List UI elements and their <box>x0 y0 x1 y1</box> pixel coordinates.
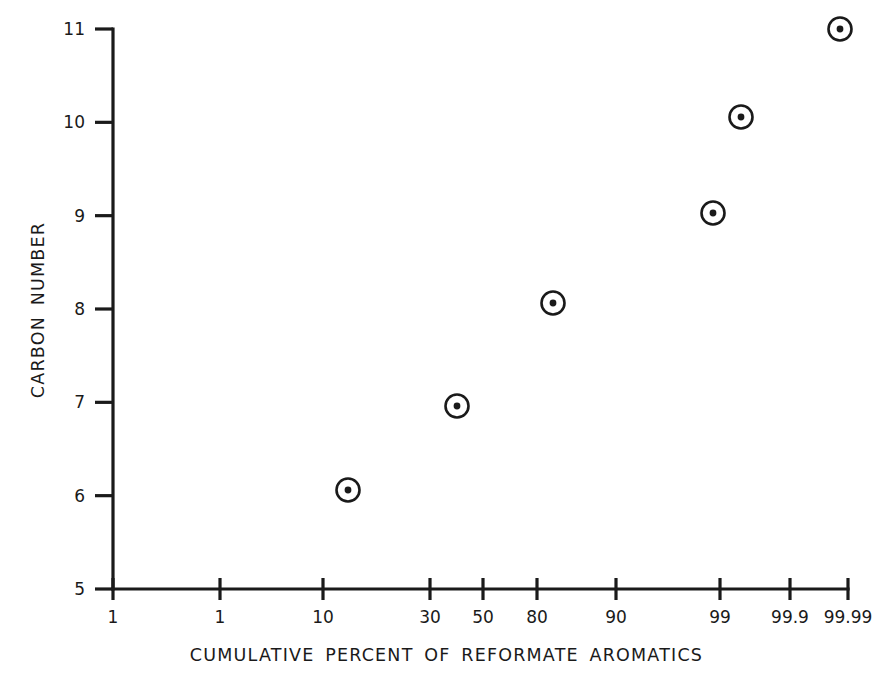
data-point-center-dot <box>837 26 844 33</box>
data-point <box>829 18 852 41</box>
y-axis-title: CARBON NUMBER <box>28 210 48 410</box>
y-axis-tick-label: 6 <box>0 486 85 506</box>
data-point-center-dot <box>550 300 557 307</box>
y-axis-tick-label: 5 <box>0 579 85 599</box>
y-axis-ticks <box>95 29 113 589</box>
x-axis-tick-label: 1 <box>215 607 226 627</box>
x-axis-tick-label: 99.99 <box>824 607 873 627</box>
data-point <box>337 479 360 502</box>
x-axis-tick-label: 99 <box>709 607 731 627</box>
data-point-center-dot <box>710 210 717 217</box>
x-axis-tick-label: 99.9 <box>771 607 809 627</box>
scatter-chart: 1110305080909999.999.99 567891011 CUMULA… <box>0 0 893 693</box>
data-point <box>542 292 565 315</box>
x-axis-tick-label: 10 <box>312 607 334 627</box>
data-point <box>702 202 725 225</box>
x-axis-tick-label: 50 <box>472 607 494 627</box>
y-axis-tick-label: 10 <box>0 112 85 132</box>
y-axis-tick-label: 11 <box>0 19 85 39</box>
data-point-center-dot <box>345 487 352 494</box>
data-point-markers <box>337 18 852 502</box>
data-point <box>446 395 469 418</box>
data-point-center-dot <box>738 114 745 121</box>
data-point <box>730 106 753 129</box>
x-axis-tick-label: 80 <box>526 607 548 627</box>
axis-lines <box>113 29 848 589</box>
x-axis-tick-label: 90 <box>605 607 627 627</box>
x-axis-tick-label: 30 <box>419 607 441 627</box>
x-axis-title: CUMULATIVE PERCENT OF REFORMATE AROMATIC… <box>0 645 893 665</box>
x-axis-tick-label: 1 <box>108 607 119 627</box>
data-point-center-dot <box>454 403 461 410</box>
plot-area <box>0 0 893 693</box>
